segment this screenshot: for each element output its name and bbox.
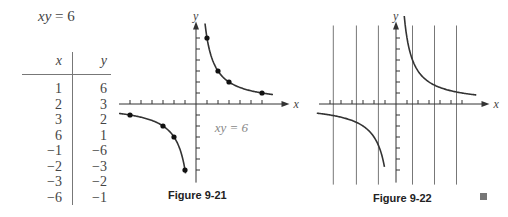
cell-y: −1 [73,190,112,206]
figure-9-22-caption: Figure 9-22 [373,192,432,204]
hyperbola-branch-positive [404,16,476,95]
y-axis-label: y [392,9,399,23]
x-axis-label: x [493,97,500,111]
end-of-example-marker [480,193,487,200]
table-row: −6−1 [22,190,111,206]
figure-9-21-caption: Figure 9-21 [168,189,227,201]
x-axis-arrow-icon [482,101,490,107]
figure-9-22-chart: xy [0,0,508,190]
y-axis-arrow-icon [393,22,399,30]
hyperbola-branch-negative [317,113,385,167]
cell-x: −6 [22,190,73,206]
